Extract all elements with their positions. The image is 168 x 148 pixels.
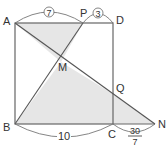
- label-b: B: [3, 121, 10, 133]
- measure-pd: 3: [95, 9, 100, 19]
- label-c: C: [108, 128, 116, 140]
- label-a: A: [3, 15, 11, 27]
- measure-bc: 10: [58, 130, 70, 142]
- label-d: D: [116, 14, 124, 26]
- measure-cn-denominator: 7: [132, 137, 137, 147]
- label-m: M: [58, 61, 67, 73]
- measure-cn-numerator: 30: [130, 126, 140, 136]
- geometry-diagram: 7 3 10 30 7 A P D B C N M Q: [0, 0, 168, 148]
- shaded-triangle-apm: [15, 23, 83, 62]
- label-q: Q: [116, 82, 125, 94]
- label-p: P: [80, 7, 87, 19]
- label-n: N: [158, 118, 166, 130]
- measure-ap: 7: [46, 8, 51, 18]
